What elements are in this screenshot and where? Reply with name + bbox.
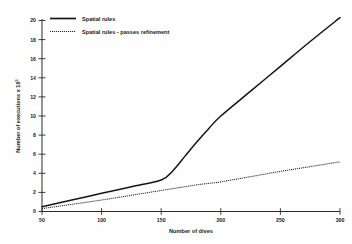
y-tick-label: 12 — [30, 94, 36, 100]
x-axis-title: Number of dives — [169, 228, 213, 234]
x-tick-label: 150 — [157, 217, 166, 223]
y-tick-label: 2 — [33, 189, 36, 195]
chart-figure: 0 2 4 6 8 10 12 14 16 18 20 50 100 150 2… — [0, 0, 352, 244]
y-tick-label: 0 — [33, 208, 36, 214]
line-chart: 0 2 4 6 8 10 12 14 16 18 20 50 100 150 2… — [0, 0, 352, 244]
y-axis-title-text: Number of executions x 10 — [15, 81, 21, 152]
x-tick-label: 200 — [216, 217, 225, 223]
y-tick-label: 14 — [30, 75, 36, 81]
y-tick-label: 6 — [33, 151, 36, 157]
x-tick-label: 300 — [336, 217, 345, 223]
y-tick-label: 10 — [30, 113, 36, 119]
y-tick-label: 16 — [30, 56, 36, 62]
y-tick-label: 20 — [30, 17, 36, 23]
svg-text:Number of executions x 105: Number of executions x 105 — [14, 78, 22, 152]
y-axis-title: Number of executions x 105 — [14, 78, 22, 152]
x-tick-label: 100 — [97, 217, 106, 223]
x-tick-label: 50 — [39, 217, 45, 223]
legend-label-0: Spatial rules — [82, 16, 115, 22]
y-tick-label: 8 — [33, 132, 36, 138]
x-tick-label: 250 — [276, 217, 285, 223]
y-tick-label: 18 — [30, 37, 36, 43]
legend-label-1: Spatial rules - passes refinement — [82, 29, 169, 35]
y-tick-label: 4 — [33, 170, 36, 176]
